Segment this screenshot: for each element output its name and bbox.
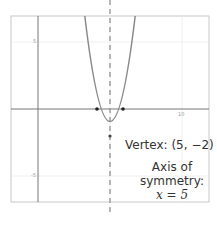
y-tick-label-5: 5: [33, 38, 36, 44]
x-tick-label-10: 10: [178, 111, 184, 117]
vertex-point: [108, 134, 111, 137]
x-intercept-right-point: [121, 107, 125, 111]
y-tick-label-neg5: -5: [31, 172, 36, 178]
axis-annotation-equation: x = 5: [134, 188, 210, 202]
vertex-annotation: Vertex: (5, −2): [125, 138, 214, 152]
axis-annotation-line1: Axis of: [134, 160, 210, 174]
x-intercept-left-point: [95, 107, 99, 111]
axis-annotation-line2: symmetry:: [134, 174, 210, 188]
